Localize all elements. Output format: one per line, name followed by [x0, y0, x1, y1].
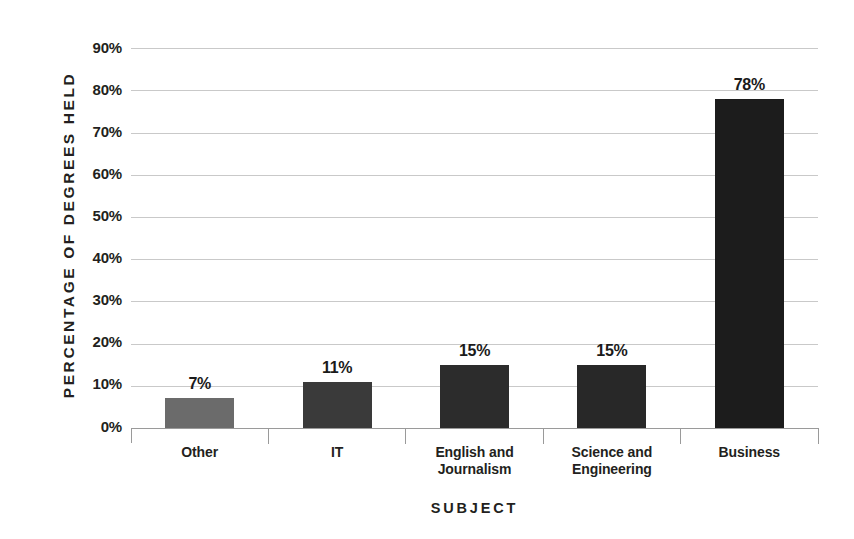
y-tick-label: 50% — [64, 208, 122, 223]
x-axis-title: SUBJECT — [131, 500, 818, 516]
plot-area: 7% 11% 15% 15% 78% — [131, 48, 818, 428]
category-label-line: Engineering — [542, 461, 682, 478]
category-label-line: Science and — [542, 444, 682, 461]
x-axis-line — [131, 428, 819, 429]
category-label-line: IT — [267, 444, 407, 461]
x-axis-category-label: English and Journalism — [405, 444, 545, 478]
y-tick-label: 20% — [64, 334, 122, 349]
x-axis-category-label: Science and Engineering — [542, 444, 682, 478]
bar-value-label: 15% — [562, 343, 662, 359]
bar-value-label: 7% — [150, 376, 250, 392]
y-tick-label: 70% — [64, 124, 122, 139]
y-tick-label: 90% — [64, 40, 122, 55]
y-tick-label: 80% — [64, 82, 122, 97]
x-axis-tick — [818, 429, 819, 444]
x-axis-category-label: Other — [130, 444, 270, 461]
category-label-line: Business — [679, 444, 819, 461]
gridline-90 — [131, 48, 818, 49]
y-tick-label: 60% — [64, 166, 122, 181]
x-axis-category-label: Business — [679, 444, 819, 461]
y-tick-label: 0% — [64, 419, 122, 434]
bar-business[interactable] — [715, 99, 784, 428]
x-axis-category-label: IT — [267, 444, 407, 461]
y-axis-tick-labels: 90% 80% 70% 60% 50% 40% 30% 20% 10% 0% — [60, 48, 122, 428]
bar-other[interactable] — [165, 398, 234, 428]
x-axis-tick — [680, 429, 681, 444]
x-axis-tick — [405, 429, 406, 444]
bar-chart: PERCENTAGE OF DEGREES HELD 90% 80% 70% 6… — [0, 0, 854, 539]
bar-it[interactable] — [303, 382, 372, 428]
y-tick-label: 10% — [64, 376, 122, 391]
bar-value-label: 15% — [425, 343, 525, 359]
category-label-line: Other — [130, 444, 270, 461]
y-tick-label: 40% — [64, 250, 122, 265]
bar-value-label: 11% — [287, 360, 387, 376]
category-label-line: English and — [405, 444, 545, 461]
category-label-line: Journalism — [405, 461, 545, 478]
y-tick-label: 30% — [64, 292, 122, 307]
y-axis-line — [131, 428, 132, 443]
bar-english-and-journalism[interactable] — [440, 365, 509, 428]
x-axis-tick — [543, 429, 544, 444]
x-axis-tick — [268, 429, 269, 444]
bar-value-label: 78% — [699, 77, 799, 93]
bar-science-and-engineering[interactable] — [577, 365, 646, 428]
